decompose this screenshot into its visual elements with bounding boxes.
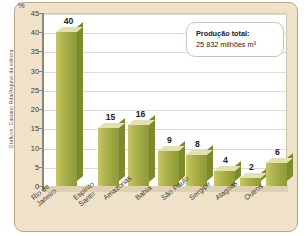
bar-value-label: 6 <box>275 147 280 157</box>
bar-value-label: 2 <box>249 162 254 172</box>
y-axis-tick-label: 20 <box>31 105 39 114</box>
bar-side-face <box>119 118 125 181</box>
bar: 40 <box>56 32 77 186</box>
y-axis-tick-mark <box>39 148 42 149</box>
y-axis-tick-label: 35 <box>31 47 39 56</box>
bar-value-label: 4 <box>223 155 228 165</box>
y-axis-tick-mark <box>39 128 42 129</box>
bar-value-label: 9 <box>167 135 172 145</box>
bar-value-label: 40 <box>64 16 74 26</box>
y-axis-tick-label: 45 <box>31 9 39 18</box>
bar: 6 <box>266 163 287 186</box>
y-axis-tick-mark <box>39 51 42 52</box>
bar-side-face <box>77 22 83 181</box>
bar-value-label: 16 <box>136 109 146 119</box>
bar-front-face <box>98 128 119 186</box>
y-axis-tick-label: 25 <box>31 85 39 94</box>
bar-value-label: 15 <box>106 112 116 122</box>
y-axis-tick-label: 15 <box>31 124 39 133</box>
bar: 16 <box>128 125 149 187</box>
bar-front-face <box>56 32 77 186</box>
y-axis-tick-label: 40 <box>31 28 39 37</box>
credit-line: Gráficos: Casiano Rda/Arquivo da editora <box>8 34 14 164</box>
bar-value-label: 8 <box>195 139 200 149</box>
bar: 15 <box>98 128 119 186</box>
bar-front-face <box>128 125 149 187</box>
bar-side-face <box>149 114 155 181</box>
y-axis-tick-mark <box>39 109 42 110</box>
y-axis-tick-label: 10 <box>31 143 39 152</box>
chart-figure: Gráficos: Casiano Rda/Arquivo da editora… <box>0 0 306 236</box>
y-axis-tick-mark <box>39 13 42 14</box>
total-production-callout: Produção total: 25 832 milhões m³ <box>186 22 284 57</box>
callout-value: 25 832 milhões m³ <box>196 40 276 49</box>
bar-front-face <box>266 163 287 186</box>
y-axis-tick-mark <box>39 167 42 168</box>
y-axis-tick-mark <box>39 71 42 72</box>
y-axis-tick-label: 30 <box>31 66 39 75</box>
y-axis-unit-label: % <box>18 1 25 10</box>
y-axis-tick-mark <box>39 90 42 91</box>
callout-title: Produção total: <box>196 29 276 38</box>
y-axis-tick-mark <box>39 32 42 33</box>
